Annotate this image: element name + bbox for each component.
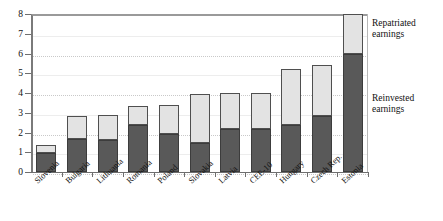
y-axis-tick-mark — [25, 133, 31, 134]
legend-repatriated-earnings-line-1: Repatriated — [372, 18, 416, 29]
bar-bulgaria[interactable] — [67, 14, 87, 172]
y-axis-tick-mark — [25, 152, 31, 153]
x-axis-tick-mark — [307, 172, 308, 177]
x-axis-tick-mark — [215, 172, 216, 177]
x-axis-tick-mark — [337, 172, 338, 177]
y-axis-tick-mark — [25, 34, 31, 35]
x-axis-tick-mark — [92, 172, 93, 177]
y-axis-tick-label: 5 — [5, 68, 23, 78]
bar-lithuania[interactable] — [98, 14, 118, 172]
bar-segment-repatriated — [36, 145, 56, 153]
bar-segment-repatriated — [159, 105, 179, 134]
bar-segment-repatriated — [251, 93, 271, 129]
bar-poland[interactable] — [159, 14, 179, 172]
legend-reinvested-earnings: Reinvestedearnings — [372, 93, 414, 115]
y-axis-tick-mark — [25, 73, 31, 74]
bar-segment-repatriated — [343, 14, 363, 54]
bar-hungary[interactable] — [281, 14, 301, 172]
bar-segment-repatriated — [190, 94, 210, 143]
bar-segment-repatriated — [67, 116, 87, 140]
legend-reinvested-earnings-line-1: Reinvested — [372, 93, 414, 104]
bar-estonia[interactable] — [343, 14, 363, 172]
bar-segment-repatriated — [312, 65, 332, 115]
legend-repatriated-earnings: Repatriatedearnings — [372, 18, 416, 40]
bar-segment-repatriated — [281, 69, 301, 124]
bar-latvia[interactable] — [220, 14, 240, 172]
y-axis-tick-label: 0 — [5, 167, 23, 177]
plot-right-border — [367, 14, 368, 172]
x-axis-tick-mark — [276, 172, 277, 177]
x-axis-tick-mark — [368, 172, 369, 177]
y-axis-tick-label: 7 — [5, 29, 23, 39]
y-axis-tick-mark — [25, 93, 31, 94]
y-axis-tick-mark — [25, 113, 31, 114]
y-axis-tick-label: 4 — [5, 88, 23, 98]
bar-segment-repatriated — [220, 93, 240, 129]
x-axis-tick-mark — [184, 172, 185, 177]
bar-slovenia[interactable] — [36, 14, 56, 172]
bar-segment-repatriated — [128, 106, 148, 125]
x-axis-tick-mark — [245, 172, 246, 177]
y-axis-tick-mark — [25, 14, 31, 15]
bar-cee-10[interactable] — [251, 14, 271, 172]
chart-figure: 012345678SloveniaBulgariaLithuaniaRomani… — [0, 0, 443, 221]
bar-czech-rep[interactable] — [312, 14, 332, 172]
bar-segment-repatriated — [98, 115, 118, 141]
legend-reinvested-earnings-line-2: earnings — [372, 104, 414, 115]
y-axis-tick-label: 8 — [5, 9, 23, 19]
x-axis-tick-mark — [154, 172, 155, 177]
bar-slovakia[interactable] — [190, 14, 210, 172]
x-axis-tick-mark — [62, 172, 63, 177]
y-axis-tick-label: 3 — [5, 108, 23, 118]
y-axis-tick-label: 2 — [5, 128, 23, 138]
y-axis-tick-label: 1 — [5, 147, 23, 157]
bar-segment-reinvested — [343, 54, 363, 173]
bar-romania[interactable] — [128, 14, 148, 172]
y-axis-tick-mark — [25, 54, 31, 55]
y-axis-tick-label: 6 — [5, 49, 23, 59]
legend-repatriated-earnings-line-2: earnings — [372, 29, 416, 40]
x-axis-tick-mark — [123, 172, 124, 177]
y-axis-tick-mark — [25, 172, 31, 173]
